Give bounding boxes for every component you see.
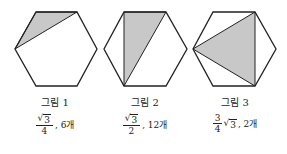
figure-2-value: √3 2 , 12개 — [100, 113, 190, 136]
fraction: √3 4 — [36, 113, 53, 136]
figure-3-value: 3 4 √3 , 2개 — [190, 113, 280, 134]
sqrt-arg: 3 — [130, 114, 138, 125]
denominator: 4 — [39, 126, 49, 136]
figure-2-label: 그림 2 — [105, 97, 185, 109]
figure-3-label: 그림 3 — [195, 97, 275, 109]
count-text: , 2개 — [238, 117, 257, 130]
figure-3-diagram — [193, 12, 276, 86]
figure-2-shaded-triangle — [124, 12, 166, 86]
sqrt-term: √3 — [223, 118, 236, 130]
denominator: 2 — [127, 126, 137, 136]
fraction: 3 4 — [213, 113, 223, 134]
numerator: 3 — [213, 113, 223, 124]
figure-1-value: √3 4 , 6개 — [10, 113, 100, 136]
sqrt-arg: 3 — [43, 114, 51, 125]
figure-3-shaded-triangle — [193, 12, 255, 86]
sqrt-arg: 3 — [229, 119, 237, 130]
denominator: 4 — [213, 124, 223, 134]
count-text: , 6개 — [55, 118, 74, 131]
count-text: , 12개 — [142, 118, 167, 131]
figure-2-diagram — [104, 12, 187, 86]
fraction: √3 2 — [123, 113, 140, 136]
figure-1-label: 그림 1 — [15, 97, 95, 109]
hexagon-figures — [0, 0, 287, 100]
figure-1-shaded-triangle — [15, 12, 77, 49]
figure-1-diagram — [15, 12, 97, 86]
